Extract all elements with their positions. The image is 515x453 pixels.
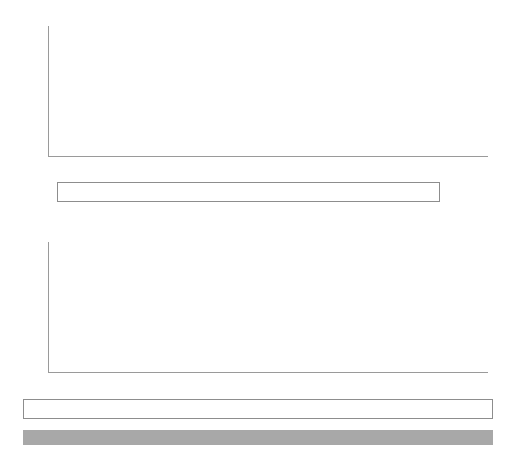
top-bar-chart — [0, 0, 515, 210]
top-chart-plot-area — [48, 26, 488, 156]
top-chart-legend — [57, 182, 440, 202]
bottom-chart-bars — [48, 242, 488, 372]
source-bar — [23, 430, 493, 445]
bottom-bar-chart — [0, 222, 515, 422]
bottom-chart-x-axis — [48, 372, 488, 373]
top-chart-bars — [48, 26, 488, 156]
chart-page — [0, 0, 515, 453]
bottom-chart-legend — [23, 399, 493, 419]
bottom-chart-plot-area — [48, 242, 488, 372]
top-chart-x-axis — [48, 156, 488, 157]
